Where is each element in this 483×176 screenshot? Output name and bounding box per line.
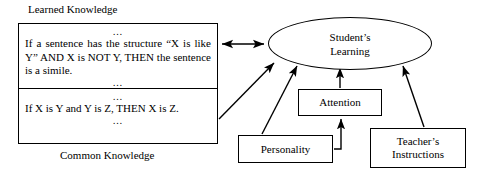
common-knowledge-section: … If X is Y and Y is Z, THEN X is Z. … [19,89,217,144]
personality-box: Personality [238,135,333,163]
learned-knowledge-rule: If a sentence has the structure “X is li… [25,36,211,78]
knowledge-base-box: … If a sentence has the structure “X is … [18,23,218,144]
teacher-instructions-line2: Instructions [392,148,444,161]
diagram-canvas: Learned Knowledge Common Knowledge … If … [0,0,483,176]
teacher-instructions-box: Teacher’s Instructions [370,128,466,168]
attention-box: Attention [298,89,382,116]
teacher-instructions-line1: Teacher’s [397,135,439,148]
attention-label: Attention [319,96,361,109]
label-common-knowledge: Common Knowledge [60,149,154,162]
label-learned-knowledge: Learned Knowledge [28,3,118,16]
common-ellipsis-bottom: … [25,116,211,125]
edge-teacher-to-student [403,66,424,127]
edge-personality-to-attention [334,119,341,149]
learned-ellipsis-bottom: … [25,78,211,87]
edge-personality-to-student [262,66,297,134]
learned-ellipsis-top: … [25,27,211,36]
common-ellipsis-top: … [25,92,211,101]
learned-knowledge-section: … If a sentence has the structure “X is … [19,24,217,89]
student-learning-ellipse: Student’s Learning [268,17,432,70]
common-knowledge-rule: If X is Y and Y is Z, THEN X is Z. [25,101,211,116]
student-learning-line2: Learning [330,44,370,58]
student-learning-line1: Student’s [330,30,371,44]
edge-common-knowledge-to-student [219,63,274,119]
personality-label: Personality [261,143,311,156]
